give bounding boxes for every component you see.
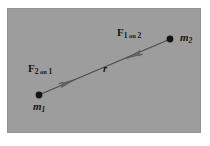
mass-1-label: m1 [33, 101, 45, 114]
mass-1-subscript: 1 [42, 105, 46, 114]
mass-2-point [167, 36, 174, 43]
force-1-on-2-symbol: F [117, 26, 124, 38]
mass-2-label: m2 [180, 32, 192, 45]
mass-1-symbol: m [33, 100, 42, 112]
mass-2-symbol: m [180, 31, 189, 43]
mass-2-subscript: 2 [189, 36, 193, 45]
force-2-on-1-symbol: F [28, 62, 35, 74]
force-2-on-1-subscript: 2 on 1 [35, 67, 53, 76]
force-2-on-1-sub-post: 1 [49, 67, 53, 76]
force-1-on-2-label: F1 on 2 [117, 27, 141, 40]
figure-canvas: F1 on 2 F2 on 1 m1 m2 r [0, 0, 210, 146]
force-2-on-1-sub-on: on [38, 68, 48, 75]
mass-1-point [36, 92, 43, 99]
force-1-on-2-sub-on: on [127, 32, 137, 39]
force-1-on-2-sub-post: 2 [138, 31, 142, 40]
force-2-on-1-arrowhead [59, 80, 76, 88]
separation-label: r [103, 64, 107, 75]
force-2-on-1-label: F2 on 1 [28, 63, 52, 76]
force-1-on-2-subscript: 1 on 2 [124, 31, 142, 40]
